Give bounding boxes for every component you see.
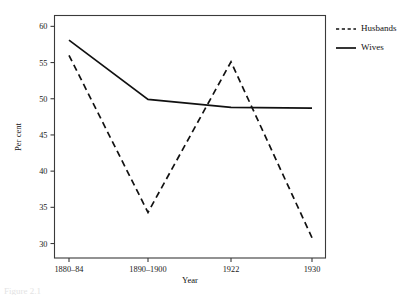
y-tick-label: 45 — [39, 131, 47, 140]
x-tick-label: 1890–1900 — [129, 265, 166, 274]
y-tick-label: 30 — [39, 240, 47, 249]
figure-caption: Figure 2.1 — [4, 286, 41, 295]
y-tick-label: 50 — [39, 95, 47, 104]
y-tick-label: 55 — [39, 59, 47, 68]
y-tick-label: 60 — [39, 22, 47, 31]
legend-label-husbands: Husbands — [361, 23, 397, 33]
y-tick-label: 40 — [39, 167, 47, 176]
chart-background — [0, 0, 418, 298]
x-tick-label: 1922 — [223, 265, 240, 274]
x-axis-title: Year — [182, 275, 198, 285]
line-chart: 30354045505560 1880–841890–190019221930 … — [0, 0, 418, 298]
x-tick-label: 1930 — [304, 265, 321, 274]
figure-root: 30354045505560 1880–841890–190019221930 … — [0, 0, 418, 298]
x-tick-label: 1880–84 — [54, 265, 84, 274]
y-axis-title: Per cent — [13, 122, 23, 151]
y-tick-label: 35 — [39, 203, 47, 212]
legend-label-wives: Wives — [361, 42, 384, 52]
